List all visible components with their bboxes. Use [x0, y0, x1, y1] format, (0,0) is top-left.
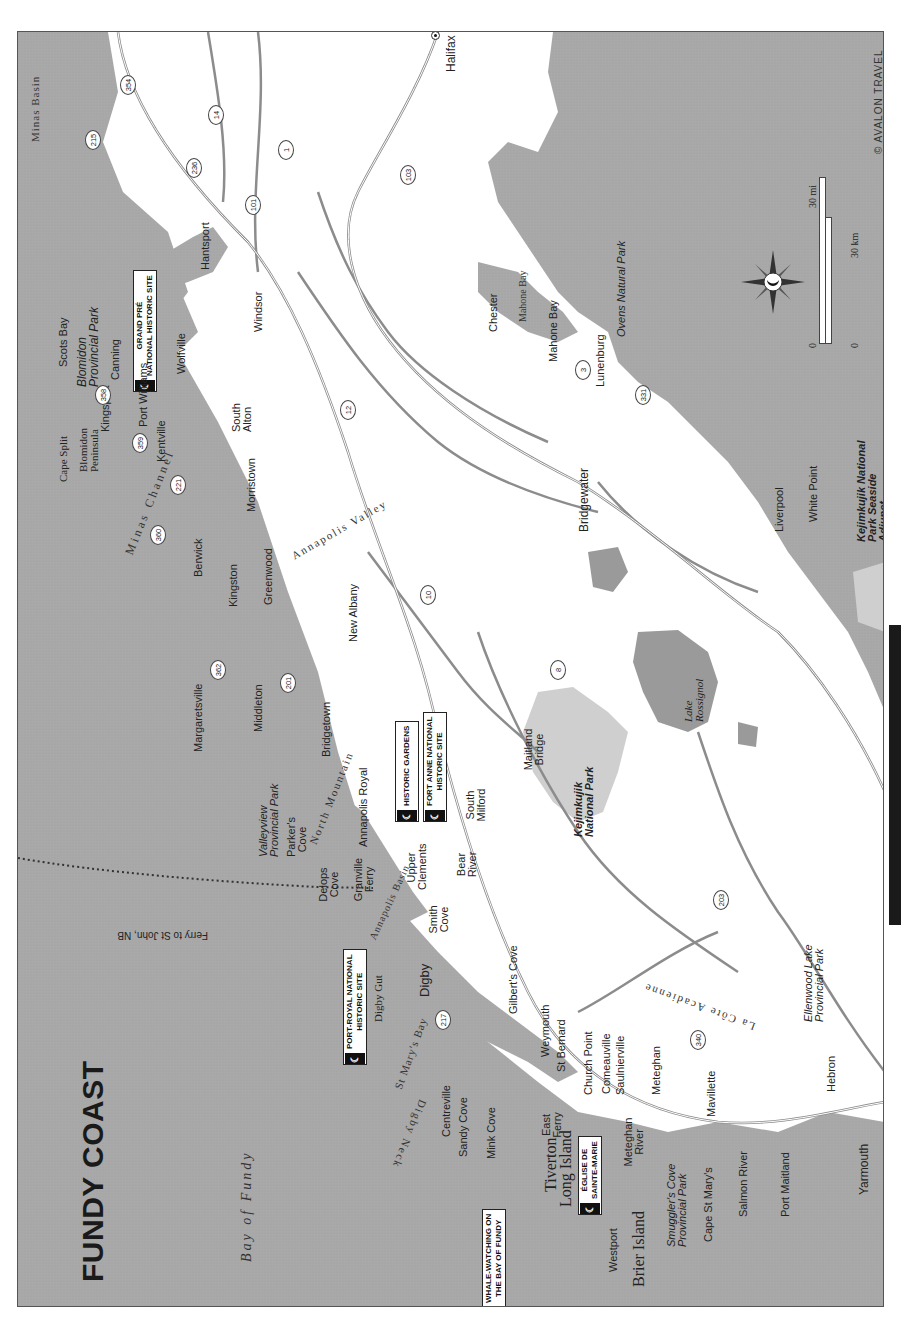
- town-white-point: White Point: [808, 466, 819, 522]
- label-kejimkujik-park: Kejimkujik National Park: [573, 757, 595, 837]
- moon-icon: ☾: [580, 1203, 600, 1214]
- label-cape-split: Cape Split: [58, 436, 69, 482]
- moon-icon: ☾: [425, 810, 445, 821]
- town-yarmouth: Yarmouth: [858, 1144, 870, 1195]
- copyright: © AVALON TRAVEL: [874, 50, 884, 154]
- label-valleyview-park: Valleyview Provincial Park: [258, 767, 280, 857]
- town-cape-st-marys: Cape St Mary's: [703, 1167, 714, 1242]
- route-shield: 201: [280, 673, 296, 693]
- town-sandy-cove: Sandy Cove: [458, 1097, 469, 1157]
- moon-icon: ☾: [345, 1053, 365, 1064]
- route-shield: 362: [210, 660, 226, 680]
- route-shield: 3: [575, 360, 591, 380]
- callout-fort-anne: ☾ FORT ANNE NATIONALHISTORIC SITE: [423, 712, 447, 822]
- town-new-albany: New Albany: [348, 584, 359, 642]
- route-shield: 215: [85, 130, 101, 150]
- town-church-point: Church Point: [583, 1031, 594, 1095]
- town-port-maitland: Port Maitland: [780, 1152, 791, 1217]
- town-centreville: Centreville: [441, 1085, 452, 1137]
- town-st-bernard: St Bernard: [556, 1019, 567, 1072]
- route-shield: 236: [186, 158, 202, 178]
- town-morristown: Morristown: [246, 458, 257, 512]
- town-weymouth: Weymouth: [540, 1005, 551, 1057]
- town-scots-bay: Scots Bay: [58, 317, 69, 367]
- scale-km-zero: 0: [850, 343, 860, 348]
- town-maitland-bridge: Maitland Bridge: [523, 727, 545, 772]
- route-shield: 14: [208, 105, 224, 125]
- town-south-milford: South Milford: [465, 785, 487, 825]
- moon-icon: ☾: [397, 810, 417, 821]
- callout-eglise-sainte-marie: ☾ ÉGLISE DESAINTE-MARIE: [578, 1136, 602, 1215]
- route-shield: 221: [170, 475, 186, 495]
- town-wolfville: Wolfville: [176, 333, 187, 374]
- town-meteghan-river: Meteghan River: [623, 1117, 645, 1167]
- label-smugglers-cove-park: Smuggler's Cove Provincial Park: [666, 1137, 688, 1247]
- route-shield: 10: [420, 585, 436, 605]
- town-annapolis-royal: Annapolis Royal: [358, 768, 369, 848]
- town-gilberts-cove: Gilbert's Cove: [508, 945, 519, 1014]
- label-ellenwood-park: Ellenwood Lake Provincial Park: [803, 912, 825, 1022]
- route-shield: 358: [95, 385, 111, 405]
- town-kingston: Kingston: [228, 564, 239, 607]
- town-lunenburg: Lunenburg: [595, 334, 606, 387]
- scale-km-label: 30 km: [850, 233, 860, 258]
- town-port-williams: Port Williams: [138, 363, 149, 427]
- callout-port-royal: ☾ PORT-ROYAL NATIONALHISTORIC SITE: [343, 949, 367, 1065]
- town-meteghan: Meteghan: [651, 1046, 662, 1095]
- label-mahone-bay: Mahone Bay: [518, 271, 528, 322]
- town-hebron: Hebron: [826, 1056, 837, 1092]
- town-berwick: Berwick: [193, 538, 204, 577]
- label-lake-rossignol: Lake Rossignol: [683, 672, 705, 722]
- town-parkers-cove: Parker's Cove: [286, 822, 308, 857]
- route-shield: 101: [245, 195, 261, 215]
- route-shield: 12: [340, 400, 356, 420]
- map-frame: FUNDY COAST Bay of Fundy Minas Channel M…: [17, 31, 884, 1307]
- town-greenwood: Greenwood: [263, 548, 274, 605]
- town-bridgetown: Bridgetown: [321, 702, 332, 757]
- town-delops-cove: Delops Cove: [318, 867, 340, 902]
- route-shield: 217: [435, 1010, 451, 1030]
- town-liverpool: Liverpool: [774, 487, 785, 532]
- label-minas-basin: Minas Basin: [30, 76, 41, 142]
- town-salmon-river: Salmon River: [738, 1151, 749, 1217]
- town-middleton: Middleton: [253, 684, 264, 732]
- label-kejimkujik-seaside: Kejimkujik National Park Seaside Adjunct: [856, 432, 884, 542]
- page-edge-tab: [889, 625, 901, 925]
- label-digby-gut: Digby Gut: [373, 975, 384, 1022]
- town-saulnierville: Saulnierville: [615, 1036, 626, 1095]
- route-shield: 360: [150, 525, 166, 545]
- town-mahone-bay: Mahone Bay: [548, 300, 559, 362]
- town-mavillette: Mavillette: [706, 1071, 717, 1117]
- town-comeauville: Comeauville: [601, 1033, 612, 1094]
- label-blomidon-peninsula: Blomidon Peninsula: [78, 412, 100, 472]
- town-mink-cove: Mink Cove: [486, 1107, 497, 1159]
- town-digby: Digby: [418, 964, 431, 997]
- route-shield: 103: [400, 165, 416, 185]
- town-kentville: Kentville: [156, 420, 167, 462]
- route-shield: 8: [550, 660, 566, 680]
- town-south-alton: South Alton: [231, 397, 253, 432]
- scale-mi-label: 30 mi: [808, 185, 818, 208]
- callout-whale-watching: ☾ WHALE-WATCHING ONTHE BAY OF FUNDY: [482, 1209, 506, 1307]
- town-canning: Canning: [110, 339, 121, 380]
- callout-historic-gardens: ☾ HISTORIC GARDENS: [395, 721, 419, 822]
- town-margaretsville: Margaretsville: [193, 684, 204, 752]
- town-windsor: Windsor: [253, 292, 264, 332]
- label-ovens-park: Ovens Natural Park: [616, 241, 627, 337]
- label-blomidon-park: Blomidon Provincial Park: [76, 297, 100, 387]
- town-westport: Westport: [608, 1228, 619, 1272]
- compass-rose-icon: [738, 247, 808, 317]
- town-long-island: Long Island: [558, 1130, 574, 1207]
- scale-mi-zero: 0: [808, 343, 818, 348]
- capital-marker-halifax: [432, 32, 439, 39]
- town-bear-river: Bear River: [456, 847, 478, 882]
- scale-bar-km: [825, 217, 832, 344]
- town-granville-ferry: Granville Ferry: [353, 857, 375, 902]
- label-bay-of-fundy: Bay of Fundy: [240, 1151, 254, 1262]
- town-brier-island: Brier Island: [631, 1211, 647, 1287]
- town-smith-cove: Smith Cove: [428, 902, 450, 937]
- route-shield: 354: [120, 75, 136, 95]
- map-title: FUNDY COAST: [78, 1060, 108, 1282]
- route-shield: 331: [635, 385, 651, 405]
- town-bridgewater: Bridgewater: [578, 468, 590, 532]
